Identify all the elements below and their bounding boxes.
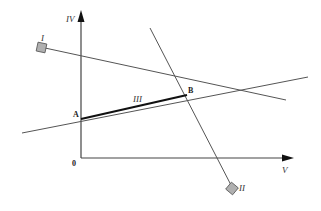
line-AB-extended: [22, 77, 308, 133]
line-I-label: I: [40, 33, 45, 43]
line-II-label: II: [238, 183, 246, 193]
origin-label: 0: [72, 159, 76, 168]
segment-III-label: III: [132, 94, 143, 104]
vertical-axis-label: IV: [65, 14, 76, 24]
diagram-canvas: IV V 0 I II III A B: [0, 0, 321, 211]
line-II: [150, 28, 232, 187]
diagram-svg: IV V 0 I II III A B: [0, 0, 321, 211]
point-A-label: A: [73, 110, 79, 119]
horizontal-axis-label: V: [282, 165, 289, 175]
horizontal-axis-arrow-icon: [282, 155, 294, 162]
line-I-marker-icon: [36, 42, 47, 53]
vertical-axis-arrow-icon: [78, 10, 85, 22]
point-B-label: B: [188, 86, 194, 95]
line-II-marker-icon: [226, 182, 239, 195]
